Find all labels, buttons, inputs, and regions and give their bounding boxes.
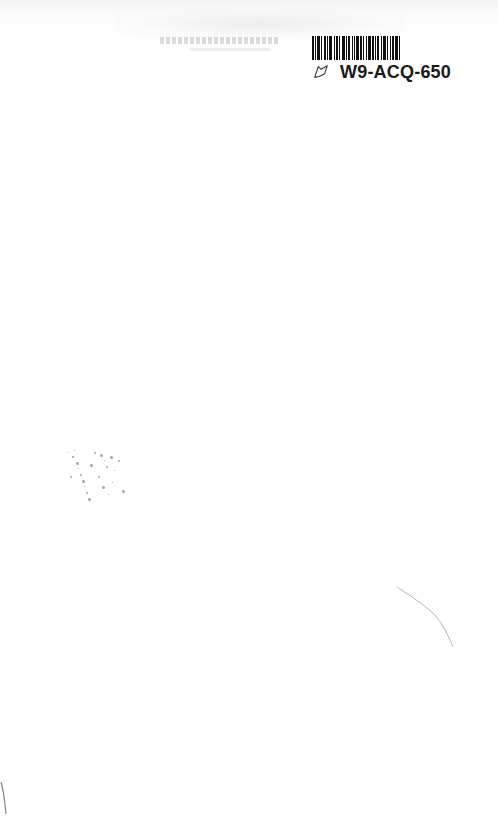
library-barcode-label: W9-ACQ-650 <box>308 34 478 86</box>
barcode-id: W9-ACQ-650 <box>340 62 451 83</box>
scan-hair-artifact <box>395 585 465 655</box>
speck <box>114 470 115 471</box>
speck <box>70 476 72 478</box>
speck <box>100 454 103 457</box>
scanned-page: W9-ACQ-650 <box>0 0 498 816</box>
library-leaf-icon <box>312 63 330 81</box>
speck <box>108 494 109 495</box>
speck <box>122 490 125 493</box>
speck <box>110 456 113 459</box>
speck <box>104 460 105 461</box>
speck <box>82 480 85 483</box>
barcode <box>312 36 474 60</box>
speck <box>78 468 79 469</box>
speck <box>76 462 79 465</box>
scan-speckle-noise <box>64 446 132 502</box>
speck <box>68 452 69 453</box>
bleed-through-subtext <box>190 48 270 51</box>
speck <box>72 456 74 458</box>
page-edge-mark <box>0 780 10 816</box>
speck <box>118 460 120 462</box>
speck <box>102 486 105 489</box>
speck <box>106 466 108 468</box>
speck <box>94 452 96 454</box>
speck <box>84 486 85 487</box>
bleed-through-text <box>160 37 280 44</box>
speck <box>74 450 75 451</box>
barcode-caption: W9-ACQ-650 <box>308 60 451 84</box>
speck <box>98 476 100 478</box>
speck <box>112 482 113 483</box>
speck <box>88 498 91 501</box>
speck <box>80 474 82 476</box>
speck <box>90 464 93 467</box>
barcode-gap <box>400 36 402 60</box>
speck <box>86 492 88 494</box>
